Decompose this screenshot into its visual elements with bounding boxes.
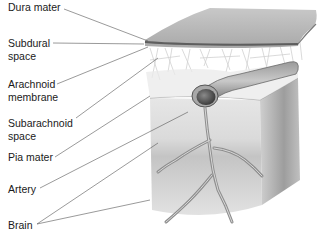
dura-mater-slab [145,8,317,48]
label-dura-mater: Dura mater [8,1,61,14]
label-subarachnoid-space: Subarachnoidspace [8,117,73,142]
label-subdural-space: Subduralspace [8,37,50,62]
label-pia-mater: Pia mater [8,151,53,164]
label-arachnoid-membrane: Arachnoidmembrane [8,78,58,103]
label-brain: Brain [8,219,33,232]
brain-block [150,78,300,215]
label-artery: Artery [8,183,36,196]
